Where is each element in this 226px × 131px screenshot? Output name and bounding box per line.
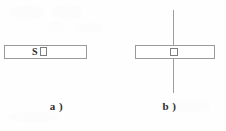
figure-panel-a: S a )	[0, 0, 113, 131]
small-square-marker-b	[170, 48, 178, 56]
figure-canvas: S a ) b )	[0, 0, 226, 131]
figure-panel-b: b )	[113, 0, 226, 131]
caption-b: b )	[113, 100, 226, 112]
small-square-marker-a	[40, 47, 47, 56]
s-label: S	[32, 45, 38, 58]
caption-a: a )	[0, 100, 113, 112]
